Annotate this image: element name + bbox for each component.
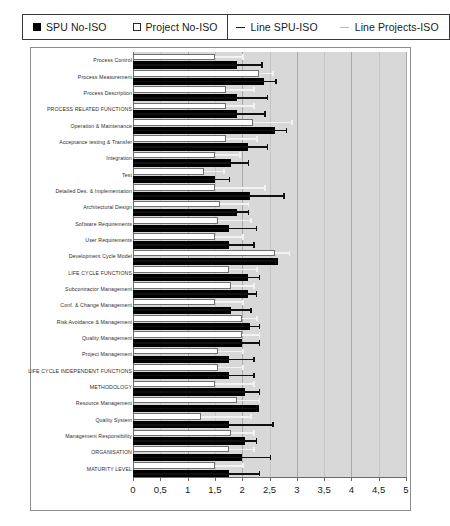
bar-project-no-iso [133, 168, 204, 175]
dark-line-whisker [133, 309, 250, 311]
x-tick-mark [379, 477, 380, 481]
chart-row: PROCESS RELATED FUNCTIONS [0, 101, 434, 117]
bar-project-no-iso [133, 299, 215, 306]
category-label: MATURITY LEVEL [87, 466, 132, 472]
category-label: LIFE CYCLE FUNCTIONS [68, 270, 132, 276]
dark-line-whisker [133, 408, 256, 410]
light-line-cap [223, 169, 225, 174]
category-label: Operation & Maintenance [70, 123, 132, 129]
dark-line-whisker [133, 244, 253, 246]
dark-line-cap [275, 259, 277, 264]
light-line-cap [248, 202, 250, 207]
dark-line-whisker [133, 162, 248, 164]
x-tick-label: 1 [185, 484, 190, 495]
dark-line-whisker [133, 260, 275, 262]
filled-square-icon [33, 23, 41, 31]
x-tick-mark [215, 477, 216, 481]
dark-line-cap [270, 455, 272, 460]
legend-label-spu-no-iso: SPU No-ISO [46, 21, 107, 33]
dark-line-whisker [133, 97, 267, 99]
x-tick-mark [160, 477, 161, 481]
dark-line-cap [267, 144, 269, 149]
dark-line-cap [283, 193, 285, 198]
bar-project-no-iso [133, 86, 226, 93]
bar-project-no-iso [133, 315, 242, 322]
x-tick-label: 0 [130, 484, 135, 495]
dark-line-whisker [133, 342, 259, 344]
dark-line-whisker [133, 457, 270, 459]
bar-project-no-iso [133, 152, 215, 159]
dark-line-icon [236, 27, 245, 28]
category-label: Process Description [84, 90, 132, 96]
x-tick-mark [297, 477, 298, 481]
bar-project-no-iso [133, 348, 218, 355]
dark-line-cap [256, 291, 258, 296]
x-tick-mark [188, 477, 189, 481]
bar-project-no-iso [133, 184, 215, 191]
dark-line-whisker [133, 440, 256, 442]
x-tick-label: 2,5 [263, 484, 276, 495]
dark-line-whisker [133, 64, 261, 66]
dark-line-whisker [133, 277, 259, 279]
category-label: Conf. & Change Management [60, 302, 132, 308]
bar-project-no-iso [133, 119, 253, 126]
legend-label-project-no-iso: Project No-ISO [146, 21, 218, 33]
category-label: LIFE CYCLE INDEPENDENT FUNCTIONS [28, 368, 132, 374]
legend-label-line-projects-iso: Line Projects-ISO [355, 21, 439, 33]
dark-line-cap [256, 438, 258, 443]
light-line-cap [256, 267, 258, 272]
category-label: PROCESS RELATED FUNCTIONS [47, 106, 132, 112]
bar-project-no-iso [133, 250, 275, 257]
dark-line-cap [253, 242, 255, 247]
dark-line-whisker [133, 391, 259, 393]
bar-project-no-iso [133, 462, 215, 469]
dark-line-whisker [133, 130, 286, 132]
x-tick-label: 3,5 [317, 484, 330, 495]
category-label: Process Control [93, 57, 132, 63]
category-label: ORGANISATION [91, 449, 132, 455]
dark-line-cap [253, 357, 255, 362]
chart-row: MATURITY LEVEL [0, 461, 434, 477]
category-label: Resource Management [76, 400, 132, 406]
bar-project-no-iso [133, 103, 226, 110]
bar-project-no-iso [133, 266, 229, 273]
category-label: Detailed Des. & Implementation [55, 188, 132, 194]
dark-line-cap [250, 308, 252, 313]
chart-row: Project Management [0, 346, 434, 362]
legend-entry-line-projects-iso: Line Projects-ISO [340, 21, 439, 33]
legend-group-bars: SPU No-ISO Project No-ISO [22, 14, 228, 40]
category-label: Risk Avoidance & Management [57, 319, 132, 325]
chart-row: LIFE CYCLE FUNCTIONS [0, 265, 434, 281]
light-line-cap [250, 218, 252, 223]
category-label: Quality System [95, 417, 132, 423]
dark-line-cap [259, 340, 261, 345]
dark-line-whisker [133, 473, 259, 475]
x-tick-mark [406, 477, 407, 481]
x-tick-mark [270, 477, 271, 481]
light-line-cap [253, 87, 255, 92]
chart-row: LIFE CYCLE INDEPENDENT FUNCTIONS [0, 363, 434, 379]
dark-line-whisker [133, 179, 229, 181]
hollow-square-icon [133, 23, 141, 31]
bar-project-no-iso [133, 54, 215, 61]
light-line-cap [242, 300, 244, 305]
dark-line-cap [264, 111, 266, 116]
dark-line-cap [253, 373, 255, 378]
dark-line-cap [259, 389, 261, 394]
dark-line-cap [261, 62, 263, 67]
bar-project-no-iso [133, 233, 215, 240]
dark-line-whisker [133, 326, 259, 328]
chart-row: Process Control [0, 52, 434, 68]
chart-legend: SPU No-ISO Project No-ISO Line SPU-ISO L… [22, 14, 450, 40]
dark-line-cap [256, 226, 258, 231]
dark-line-whisker [133, 424, 272, 426]
bar-project-no-iso [133, 381, 215, 388]
chart-row: Process Measurement [0, 68, 434, 84]
light-line-cap [242, 463, 244, 468]
light-line-cap [256, 316, 258, 321]
x-tick-label: 0,5 [154, 484, 167, 495]
light-line-cap [253, 103, 255, 108]
dark-line-cap [259, 471, 261, 476]
dark-line-cap [256, 406, 258, 411]
